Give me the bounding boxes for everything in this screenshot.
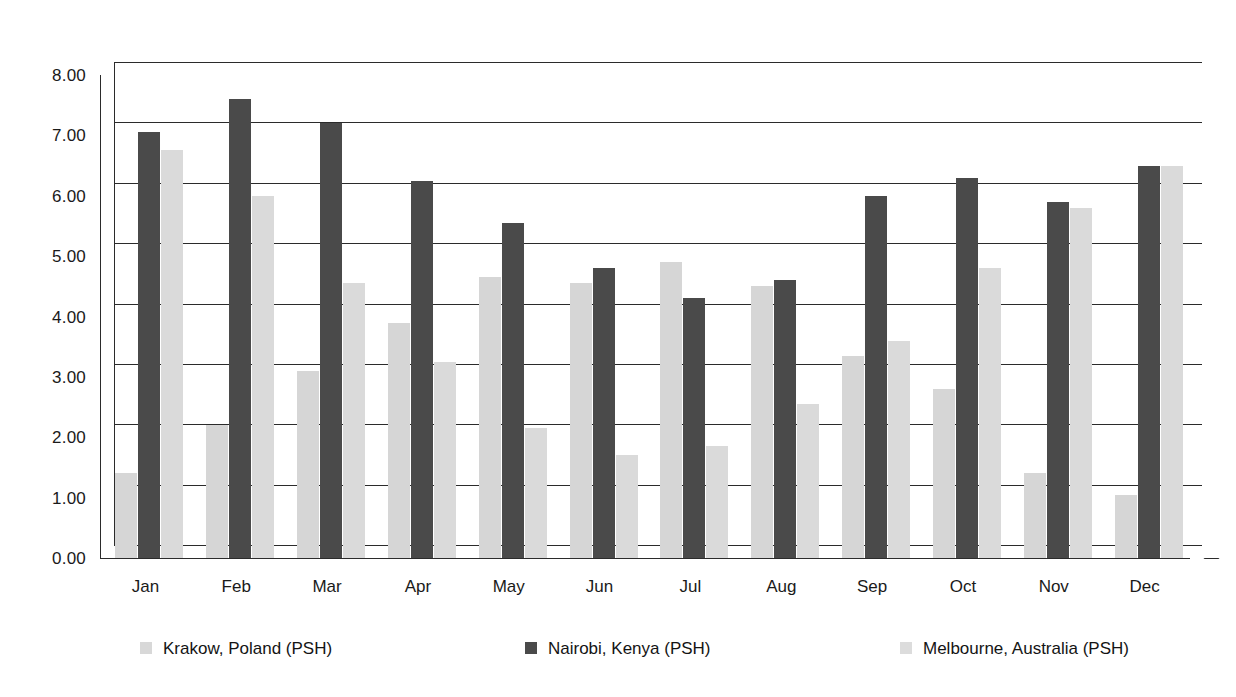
bar-melbourne bbox=[706, 446, 728, 558]
bar-nairobi bbox=[956, 178, 978, 558]
bar-nairobi bbox=[411, 181, 433, 558]
legend-swatch-icon bbox=[900, 642, 912, 654]
bar-group bbox=[373, 75, 464, 558]
legend-swatch-icon bbox=[525, 642, 537, 654]
bar-melbourne bbox=[979, 268, 1001, 558]
bar-nairobi bbox=[683, 298, 705, 558]
plot-area bbox=[100, 62, 1206, 562]
bar-krakow bbox=[660, 262, 682, 558]
y-axis-tick-label: 2.00 bbox=[14, 429, 86, 446]
bar-melbourne bbox=[525, 428, 547, 558]
bar-group bbox=[736, 75, 827, 558]
bar-krakow bbox=[388, 323, 410, 558]
bar-nairobi bbox=[593, 268, 615, 558]
bar-nairobi bbox=[138, 132, 160, 558]
bar-krakow bbox=[933, 389, 955, 558]
y-axis-tick-label: 6.00 bbox=[14, 188, 86, 205]
bar-groups bbox=[100, 75, 1190, 558]
gridline-depth-connector bbox=[100, 62, 131, 76]
bar-group bbox=[645, 75, 736, 558]
y-axis-tick-label: 3.00 bbox=[14, 369, 86, 386]
bar-chart: 0.001.002.003.004.005.006.007.008.00 Jan… bbox=[0, 0, 1236, 697]
y-axis-tick-label: 8.00 bbox=[14, 67, 86, 84]
caption-fragment bbox=[36, 688, 296, 697]
bar-nairobi bbox=[229, 99, 251, 558]
bar-group bbox=[554, 75, 645, 558]
bar-melbourne bbox=[161, 150, 183, 558]
bar-nairobi bbox=[320, 123, 342, 558]
y-axis-tick-label: 4.00 bbox=[14, 309, 86, 326]
bar-melbourne bbox=[616, 455, 638, 558]
bar-nairobi bbox=[865, 196, 887, 558]
chart-legend: Krakow, Poland (PSH)Nairobi, Kenya (PSH)… bbox=[100, 636, 1160, 666]
legend-item[interactable]: Krakow, Poland (PSH) bbox=[140, 636, 332, 660]
legend-label: Melbourne, Australia (PSH) bbox=[923, 639, 1129, 658]
bar-krakow bbox=[751, 286, 773, 558]
floor-right-edge bbox=[1189, 545, 1220, 559]
bar-krakow bbox=[1115, 495, 1137, 558]
bar-group bbox=[918, 75, 1009, 558]
legend-label: Krakow, Poland (PSH) bbox=[163, 639, 332, 658]
bar-nairobi bbox=[1047, 202, 1069, 558]
bar-group bbox=[463, 75, 554, 558]
bar-group bbox=[100, 75, 191, 558]
legend-swatch-icon bbox=[140, 642, 152, 654]
bar-nairobi bbox=[502, 223, 524, 558]
y-axis-tick-label: 1.00 bbox=[14, 490, 86, 507]
legend-item[interactable]: Nairobi, Kenya (PSH) bbox=[525, 636, 711, 660]
bar-melbourne bbox=[1070, 208, 1092, 558]
bar-melbourne bbox=[434, 362, 456, 558]
bar-melbourne bbox=[1161, 166, 1183, 558]
bar-krakow bbox=[115, 473, 137, 558]
bar-nairobi bbox=[774, 280, 796, 558]
legend-label: Nairobi, Kenya (PSH) bbox=[548, 639, 711, 658]
y-axis-tick-label: 0.00 bbox=[14, 550, 86, 567]
bar-krakow bbox=[479, 277, 501, 558]
y-axis-tick-label: 5.00 bbox=[14, 248, 86, 265]
y-axis-tick-label: 7.00 bbox=[14, 127, 86, 144]
x-axis-line-front bbox=[100, 558, 1190, 559]
bar-group bbox=[191, 75, 282, 558]
bar-krakow bbox=[842, 356, 864, 558]
legend-item[interactable]: Melbourne, Australia (PSH) bbox=[900, 636, 1129, 660]
bar-group bbox=[827, 75, 918, 558]
bar-melbourne bbox=[797, 404, 819, 558]
bar-krakow bbox=[1024, 473, 1046, 558]
bar-group bbox=[282, 75, 373, 558]
bar-krakow bbox=[297, 371, 319, 558]
x-axis-tick-label: Dec bbox=[1085, 578, 1205, 595]
gridline bbox=[114, 62, 1202, 63]
bar-krakow bbox=[206, 425, 228, 558]
bar-melbourne bbox=[343, 283, 365, 558]
bar-group bbox=[1099, 75, 1190, 558]
bar-krakow bbox=[570, 283, 592, 558]
bar-nairobi bbox=[1138, 166, 1160, 558]
bar-melbourne bbox=[888, 341, 910, 558]
bar-melbourne bbox=[252, 196, 274, 558]
bar-group bbox=[1008, 75, 1099, 558]
